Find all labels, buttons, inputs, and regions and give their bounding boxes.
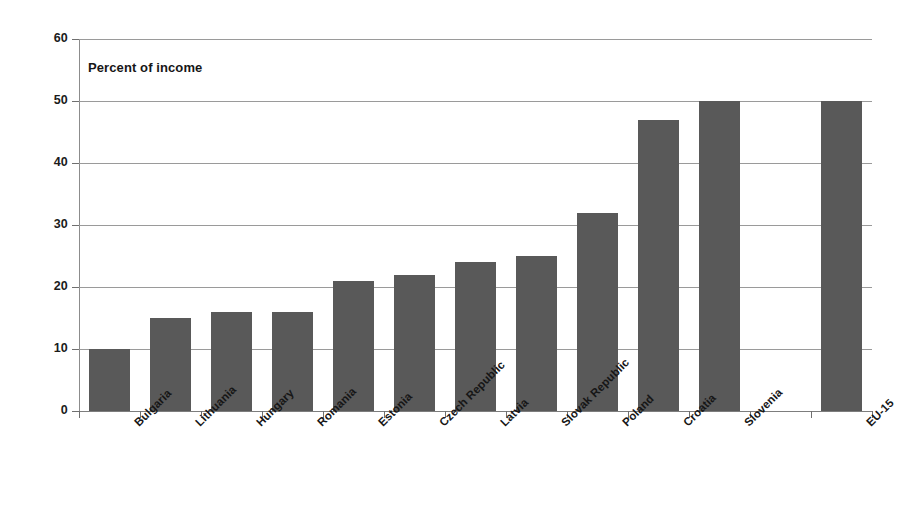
y-tick-mark-10: [72, 349, 79, 350]
x-axis-label-slovak-republic: Slovak Republic: [559, 420, 567, 428]
x-axis-label-czech-republic: Czech Republic: [437, 420, 445, 428]
x-axis-label-slovenia: Slovenia: [742, 420, 750, 428]
y-tick-mark-40: [72, 163, 79, 164]
x-axis-label-bulgaria: Bulgaria: [132, 420, 140, 428]
y-tick-label-0: 0: [38, 403, 68, 417]
x-axis-label-hungary: Hungary: [254, 420, 262, 428]
y-tick-label-30: 30: [38, 217, 68, 231]
x-tick-mark-origin: [79, 411, 80, 418]
bar-slovenia: [699, 101, 740, 411]
x-axis-label-romania: Romania: [315, 420, 323, 428]
y-tick-mark-60: [72, 39, 79, 40]
gridline-30: [79, 225, 872, 226]
bar-bulgaria: [89, 349, 130, 411]
y-tick-mark-30: [72, 225, 79, 226]
y-tick-label-60: 60: [38, 31, 68, 45]
x-axis-label-poland: Poland: [620, 420, 628, 428]
gridline-50: [79, 101, 872, 102]
bar-eu-15: [821, 101, 862, 411]
y-tick-mark-50: [72, 101, 79, 102]
x-axis-label-lithuania: Lithuania: [193, 420, 201, 428]
x-axis-label-estonia: Estonia: [376, 420, 384, 428]
y-tick-label-20: 20: [38, 279, 68, 293]
bar-croatia: [638, 120, 679, 411]
bar-chart: 0102030405060 BulgariaLithuaniaHungaryRo…: [0, 0, 918, 513]
gridline-60: [79, 39, 872, 40]
y-tick-mark-0: [72, 411, 79, 412]
y-tick-label-40: 40: [38, 155, 68, 169]
bar-slovak-republic: [516, 256, 557, 411]
x-axis-label-croatia: Croatia: [681, 420, 689, 428]
x-tick-mark-11: [811, 411, 812, 418]
chart-annotation: Percent of income: [88, 60, 202, 75]
bar-czech-republic: [394, 275, 435, 411]
y-tick-mark-20: [72, 287, 79, 288]
x-axis-label-eu-15: EU-15: [864, 420, 872, 428]
gridline-40: [79, 163, 872, 164]
y-tick-label-10: 10: [38, 341, 68, 355]
plot-area: [79, 39, 872, 411]
x-axis-label-latvia: Latvia: [498, 420, 506, 428]
y-tick-label-50: 50: [38, 93, 68, 107]
